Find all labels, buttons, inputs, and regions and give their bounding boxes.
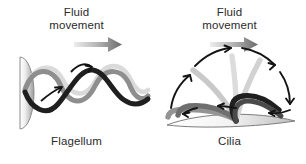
panel-cilia: Fluid movement Cilia	[153, 0, 306, 164]
fluid-movement-label: Fluid movement	[153, 6, 306, 32]
cilia-motion-arrow-left-up	[171, 75, 192, 108]
wave-motion-arrow-lower	[41, 87, 62, 101]
panel-flagellum: Fluid movement Flagellum	[0, 0, 153, 164]
flagellum-label: Flagellum	[0, 135, 153, 147]
fluid-movement-arrow	[74, 37, 122, 52]
cilium-light	[236, 60, 260, 120]
figure-root: Fluid movement Flagellum	[0, 0, 306, 164]
cilia-label: Cilia	[153, 135, 306, 147]
cilia-motion-arrow-top-left	[195, 46, 231, 67]
fluid-movement-label: Fluid movement	[0, 6, 153, 32]
cilia-motion-arrow-right-down	[280, 72, 294, 104]
